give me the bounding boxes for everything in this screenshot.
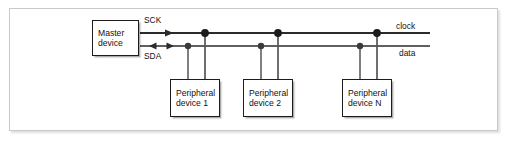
peripheral-device-n-label-line1: Peripheral [348,88,391,99]
data-bus-label: data [399,48,415,58]
figure-root: Master device Peripheral device 1 Periph… [0,0,509,142]
sck-signal-label: SCK [144,15,161,25]
peripheral-device-n-label-line2: device N [348,98,391,109]
sck-arrowhead-icon [165,29,174,36]
peripheral-n-data-junction [357,43,363,49]
peripheral-device-2-label-line1: Peripheral [249,88,292,99]
clock-bus-label: clock [396,21,415,31]
peripheral-device-1-box: Peripheral device 1 [170,79,220,117]
peripheral-device-1-label-line1: Peripheral [176,88,219,99]
master-device-label-line2: device [98,38,138,49]
sda-arrowhead-left-icon [149,43,157,50]
master-device-label-line1: Master [98,28,138,39]
peripheral-device-n-box: Peripheral device N [342,79,392,117]
sda-signal-label: SDA [144,51,161,61]
peripheral-n-clock-junction [373,29,381,37]
diagram-wires [0,0,509,142]
peripheral-device-2-label-line2: device 2 [249,98,292,109]
peripheral-device-2-box: Peripheral device 2 [243,79,293,117]
peripheral-device-1-label-line2: device 1 [176,98,219,109]
peripheral-1-data-junction [185,43,191,49]
master-device-box: Master device [92,20,139,56]
peripheral-1-clock-junction [201,29,209,37]
sda-arrowhead-right-icon [167,43,175,50]
peripheral-2-clock-junction [274,29,282,37]
peripheral-2-data-junction [258,43,264,49]
